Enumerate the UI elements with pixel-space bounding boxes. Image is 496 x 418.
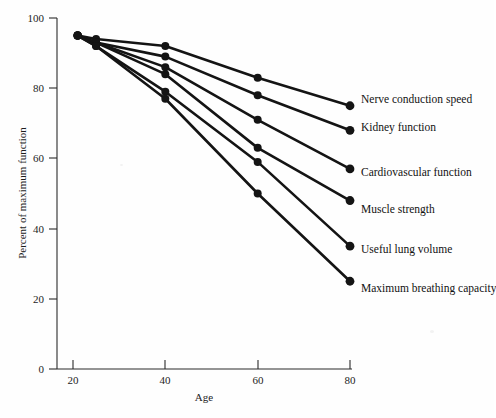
data-point-marker[interactable] <box>161 88 169 96</box>
data-point-marker[interactable] <box>254 158 262 166</box>
data-point-marker[interactable] <box>254 91 262 99</box>
y-tick-label: 60 <box>33 152 45 164</box>
data-point-marker[interactable] <box>346 242 355 251</box>
y-tick-label: 20 <box>33 293 45 305</box>
x-tick-label: 60 <box>253 374 265 386</box>
legend-label-maximum-breathing-capacity[interactable]: Maximum breathing capacity <box>361 283 496 295</box>
y-tick-label: 100 <box>28 12 45 24</box>
data-point-marker[interactable] <box>161 63 169 71</box>
y-tick-label: 0 <box>39 363 45 375</box>
data-point-marker[interactable] <box>254 74 262 82</box>
data-point-marker[interactable] <box>161 95 169 103</box>
x-axis-ticks <box>73 360 350 369</box>
x-tick-label: 80 <box>345 374 357 386</box>
x-tick-label: 40 <box>160 374 172 386</box>
x-axis-title: Age <box>195 391 213 403</box>
data-point-marker[interactable] <box>161 42 169 50</box>
y-axis-ticks <box>49 18 57 369</box>
data-point-marker[interactable] <box>92 42 100 50</box>
y-tick-label: 40 <box>33 223 45 235</box>
y-axis-title: Percent of maximum function <box>16 127 28 259</box>
data-point-marker[interactable] <box>254 190 262 198</box>
data-point-marker[interactable] <box>161 70 169 78</box>
series-line <box>78 36 350 282</box>
data-point-marker[interactable] <box>254 116 262 124</box>
series-layer <box>74 32 355 286</box>
legend-label-nerve-conduction-speed[interactable]: Nerve conduction speed <box>361 94 472 106</box>
data-point-marker[interactable] <box>74 32 82 40</box>
data-point-marker[interactable] <box>161 53 169 61</box>
y-axis-tick-labels: 100 80 60 40 20 0 <box>28 12 45 375</box>
data-point-marker[interactable] <box>346 196 355 205</box>
legend-label-kidney-function[interactable]: Kidney function <box>361 122 436 134</box>
series-line <box>78 36 350 247</box>
legend-label-cardiovascular-function[interactable]: Cardiovascular function <box>361 167 472 179</box>
x-axis-tick-labels: 20 40 60 80 <box>68 374 357 386</box>
y-tick-label: 80 <box>33 82 45 94</box>
data-point-marker[interactable] <box>346 277 355 286</box>
legend-label-muscle-strength[interactable]: Muscle strength <box>361 204 435 216</box>
data-point-marker[interactable] <box>346 165 355 174</box>
data-point-marker[interactable] <box>346 101 355 110</box>
legend-label-useful-lung-volume[interactable]: Useful lung volume <box>361 244 452 256</box>
data-point-marker[interactable] <box>346 126 355 135</box>
data-point-marker[interactable] <box>254 144 262 152</box>
x-tick-label: 20 <box>68 374 80 386</box>
